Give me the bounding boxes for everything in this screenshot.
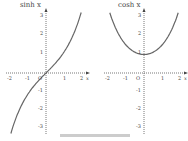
sinh-title: sinh x xyxy=(20,1,41,9)
sinh-chart: sinh x 321 -1-2-3 -2-1O 12x xyxy=(6,1,90,134)
svg-text:2: 2 xyxy=(40,30,43,36)
cosh-chart: cosh x 321 -1-2-3 -2-1O 12x xyxy=(104,1,188,134)
svg-text:-3: -3 xyxy=(38,123,43,129)
svg-text:-2: -2 xyxy=(7,75,12,81)
svg-text:-1: -1 xyxy=(123,75,128,81)
svg-text:x: x xyxy=(184,75,187,81)
hyperbolic-charts: sinh x 321 -1-2-3 -2-1O 12x cosh x 321 -… xyxy=(0,0,188,141)
svg-text:-3: -3 xyxy=(136,123,141,129)
svg-text:O: O xyxy=(38,75,42,81)
svg-text:2: 2 xyxy=(138,30,141,36)
cosh-title: cosh x xyxy=(118,1,140,9)
svg-text:-1: -1 xyxy=(136,87,141,93)
svg-text:-2: -2 xyxy=(105,75,110,81)
svg-text:3: 3 xyxy=(40,12,43,18)
svg-text:3: 3 xyxy=(138,12,141,18)
svg-text:2: 2 xyxy=(178,75,181,81)
caption xyxy=(60,134,130,137)
svg-text:1: 1 xyxy=(40,49,43,55)
svg-text:1: 1 xyxy=(161,75,164,81)
svg-text:2: 2 xyxy=(80,75,83,81)
svg-text:O: O xyxy=(136,75,140,81)
svg-text:1: 1 xyxy=(63,75,66,81)
svg-text:-1: -1 xyxy=(38,87,43,93)
svg-text:1: 1 xyxy=(138,49,141,55)
svg-text:x: x xyxy=(86,75,89,81)
svg-text:-1: -1 xyxy=(25,75,30,81)
svg-text:-2: -2 xyxy=(38,105,43,111)
svg-text:-2: -2 xyxy=(136,105,141,111)
